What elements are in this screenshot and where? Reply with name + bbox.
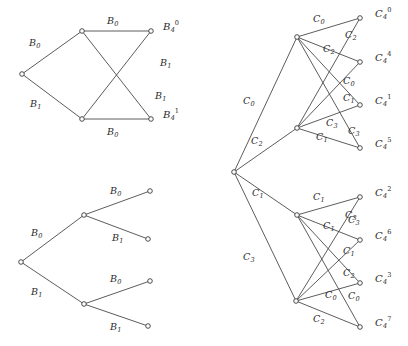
edge-label: C1 bbox=[343, 93, 354, 103]
edge-label: C0 bbox=[243, 96, 254, 106]
edge-label: B0 bbox=[110, 186, 121, 196]
graph-edge bbox=[234, 172, 296, 301]
edge-label: C1 bbox=[252, 188, 263, 198]
graph-node bbox=[148, 189, 153, 194]
graph-node bbox=[82, 302, 87, 307]
graph-node bbox=[295, 35, 300, 40]
graph-node bbox=[294, 299, 299, 304]
graph-node bbox=[358, 238, 363, 243]
graph-node bbox=[149, 29, 154, 34]
edge-label: C2 bbox=[313, 314, 324, 324]
graph-node bbox=[358, 146, 363, 151]
edge-label: B0 bbox=[107, 16, 118, 26]
graph-node bbox=[146, 237, 151, 242]
graph-edge bbox=[296, 301, 360, 327]
edge-label: C0 bbox=[313, 14, 324, 24]
node-label: C42 bbox=[375, 188, 391, 198]
graph-node bbox=[148, 279, 153, 284]
graph-node bbox=[358, 195, 363, 200]
graph-node bbox=[80, 29, 85, 34]
graph-node bbox=[82, 213, 87, 218]
edge-label: C0 bbox=[325, 290, 336, 300]
edge-label: B0 bbox=[29, 38, 40, 48]
node-group bbox=[19, 16, 363, 330]
edge-label: C2 bbox=[343, 268, 354, 278]
graph-node bbox=[295, 213, 300, 218]
edge-label: C0 bbox=[343, 76, 354, 86]
graph-node bbox=[146, 324, 151, 329]
node-label: C44 bbox=[375, 53, 391, 63]
edge-label: B1 bbox=[112, 233, 123, 243]
node-label: C41 bbox=[375, 96, 391, 106]
graph-edge bbox=[21, 215, 84, 262]
graph-node bbox=[358, 60, 363, 65]
graph-node bbox=[358, 325, 363, 330]
graph-edge bbox=[21, 262, 84, 304]
graph-edge bbox=[234, 128, 297, 172]
graph-node bbox=[358, 281, 363, 286]
edge-label: B0 bbox=[31, 228, 42, 238]
graph-node bbox=[358, 16, 363, 21]
graph-node bbox=[232, 170, 237, 175]
node-label: C40 bbox=[375, 9, 391, 19]
edge-label: C1 bbox=[343, 246, 354, 256]
edge-group bbox=[21, 18, 360, 327]
node-label: C43 bbox=[375, 274, 391, 284]
edge-label: C2 bbox=[345, 30, 356, 40]
edge-label: B0 bbox=[110, 274, 121, 284]
edge-label: C3 bbox=[348, 126, 359, 136]
edge-label: B0 bbox=[107, 127, 118, 137]
graph-edge bbox=[234, 172, 297, 215]
edge-label: B1 bbox=[160, 58, 171, 68]
node-label: C46 bbox=[375, 231, 391, 241]
edge-label: B1 bbox=[30, 99, 41, 109]
graph-node bbox=[20, 72, 25, 77]
edge-label: C3 bbox=[326, 118, 337, 128]
edge-label: C2 bbox=[251, 136, 262, 146]
edge-label: C1 bbox=[323, 221, 334, 231]
graph-node bbox=[358, 103, 363, 108]
graph-edge bbox=[22, 74, 82, 119]
figure-canvas: B0B1B0B1B1B0B40B41B0B1B0B1B0B1C0C2C1C3C0… bbox=[0, 0, 408, 346]
edge-label: C2 bbox=[323, 44, 334, 54]
edge-label: B1 bbox=[110, 322, 121, 332]
edge-label: C1 bbox=[316, 132, 327, 142]
edge-label: C3 bbox=[243, 252, 254, 262]
diagram-svg bbox=[0, 0, 408, 346]
node-label: B40 bbox=[163, 22, 179, 32]
node-label: C47 bbox=[375, 318, 391, 328]
edge-label: C0 bbox=[348, 291, 359, 301]
edge-label: C3 bbox=[348, 215, 359, 225]
graph-node bbox=[19, 260, 24, 265]
edge-label: B1 bbox=[31, 287, 42, 297]
graph-node bbox=[80, 117, 85, 122]
node-label: C45 bbox=[375, 139, 391, 149]
node-label: B41 bbox=[163, 110, 179, 120]
graph-node bbox=[295, 126, 300, 131]
edge-label: B1 bbox=[155, 91, 166, 101]
edge-label: C1 bbox=[313, 192, 324, 202]
graph-node bbox=[149, 117, 154, 122]
